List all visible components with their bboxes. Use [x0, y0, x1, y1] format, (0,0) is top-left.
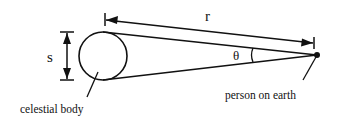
observer-dot — [314, 52, 320, 58]
person-on-earth-label: person on earth — [225, 89, 296, 102]
angle-label: θ — [233, 48, 239, 63]
s-arrowhead-top — [63, 33, 71, 44]
celestial-body-label: celestial body — [20, 103, 84, 116]
r-arrowhead-left — [106, 16, 118, 24]
upper-sight-line — [103, 32, 317, 55]
theta-angle-arc — [252, 48, 254, 62]
angular-size-diagram: s r θ celestial body person on earth — [0, 0, 340, 125]
celestial-body-circle — [79, 32, 127, 80]
size-label: s — [47, 49, 53, 65]
r-arrowhead-right — [301, 39, 313, 47]
lower-sight-line — [103, 55, 317, 80]
observer-leader-line — [303, 57, 316, 80]
distance-label: r — [205, 8, 210, 24]
s-arrowhead-bottom — [63, 68, 71, 79]
